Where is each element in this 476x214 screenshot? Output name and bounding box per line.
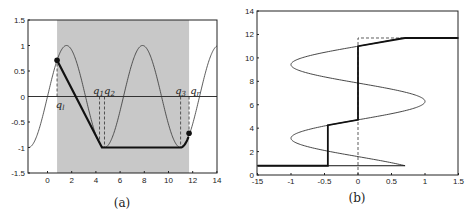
x-tick-label: 0 <box>45 176 50 185</box>
x-tick-label: 8 <box>142 176 147 185</box>
y-tick-label: 0.5 <box>14 67 26 76</box>
caption-a: (a) <box>114 196 131 210</box>
x-tick-label: 14 <box>212 176 221 185</box>
x-tick-label: 0 <box>356 177 361 186</box>
x-tick-label: 1.5 <box>453 177 465 186</box>
y-tick-label: 8 <box>250 77 255 86</box>
y-tick-label: 4 <box>250 124 255 133</box>
y-tick-label: 1.5 <box>14 16 26 25</box>
thick-step <box>258 38 459 166</box>
marker-dot <box>186 130 192 136</box>
y-tick-label: 1 <box>21 42 26 51</box>
figure: qlq1q2q3qr024681012141.510.50-0.5-1-1.5(… <box>0 0 476 214</box>
y-tick-label: 0 <box>250 171 255 180</box>
plot-a: qlq1q2q3qr024681012141.510.50-0.5-1-1.5(… <box>11 16 222 210</box>
x-tick-label: 2 <box>69 176 74 185</box>
y-tick-label: -0.5 <box>11 118 25 127</box>
y-tick-label: 12 <box>245 30 254 39</box>
caption-b: (b) <box>348 191 365 205</box>
x-tick-label: 12 <box>188 176 197 185</box>
dashed-line <box>358 38 405 175</box>
y-tick-label: 14 <box>245 7 254 16</box>
plot-b: -15-1-0.500.511.502468101214(b) <box>245 7 465 205</box>
x-tick-label: -0.5 <box>318 177 332 186</box>
y-tick-label: 6 <box>250 101 255 110</box>
x-tick-label: 4 <box>94 176 99 185</box>
y-tick-label: -1.5 <box>11 169 25 178</box>
x-tick-label: 10 <box>164 176 173 185</box>
marker-dot <box>54 57 60 63</box>
y-tick-label: 0 <box>21 93 26 102</box>
y-tick-label: -1 <box>18 144 26 153</box>
y-tick-label: 10 <box>245 54 254 63</box>
y-tick-label: 2 <box>250 148 255 157</box>
x-tick-label: 1 <box>423 177 428 186</box>
x-tick-label: 0.5 <box>386 177 398 186</box>
x-tick-label: 6 <box>118 176 123 185</box>
x-tick-label: -1 <box>287 177 295 186</box>
